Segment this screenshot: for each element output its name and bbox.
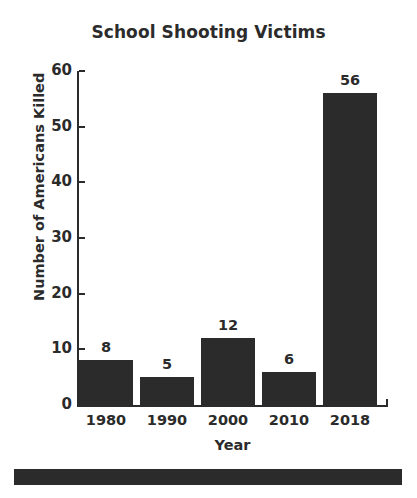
x-axis-tick-label: 1980 <box>79 412 133 428</box>
x-axis-tick-label: 1990 <box>140 412 194 428</box>
x-axis-tick-label: 2000 <box>201 412 255 428</box>
chart-title: School Shooting Victims <box>0 22 417 42</box>
y-axis-tick-label: 40 <box>28 174 72 189</box>
x-axis-tick-labels: 19801990200020102018 <box>79 412 386 432</box>
bar <box>140 377 194 405</box>
y-axis-tick-label: 60 <box>28 63 72 78</box>
bar-value-label: 56 <box>323 73 377 88</box>
bar <box>79 360 133 405</box>
x-axis-end-tick <box>386 399 388 406</box>
bar-value-label: 5 <box>140 357 194 372</box>
bar-value-label: 8 <box>79 340 133 355</box>
bar <box>323 93 377 405</box>
x-axis-tick-label: 2018 <box>323 412 377 428</box>
bar-chart: School Shooting Victims Number of Americ… <box>0 0 417 498</box>
bars-layer: 8512656 <box>79 71 386 405</box>
bar <box>262 372 316 405</box>
y-axis-tick-label: 50 <box>28 119 72 134</box>
y-axis-tick-label: 30 <box>28 230 72 245</box>
y-axis-tick-label: 10 <box>28 341 72 356</box>
y-axis-tick-label: 0 <box>28 397 72 412</box>
y-axis-tick-label: 20 <box>28 286 72 301</box>
bar-value-label: 12 <box>201 318 255 333</box>
bottom-decorative-rule <box>14 469 402 485</box>
x-axis-tick-label: 2010 <box>262 412 316 428</box>
x-axis-line <box>77 405 388 407</box>
bar-value-label: 6 <box>262 352 316 367</box>
x-axis-title: Year <box>77 437 388 453</box>
bar <box>201 338 255 405</box>
y-axis-title: Number of Americans Killed <box>31 81 47 301</box>
